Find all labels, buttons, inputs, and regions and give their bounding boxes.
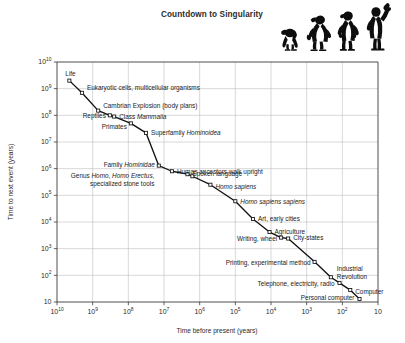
chart-title: Countdown to Singularity xyxy=(161,10,263,19)
data-point-marker xyxy=(68,79,71,82)
data-point-label: Family Hominidae xyxy=(104,161,156,169)
data-point-label: City-states xyxy=(293,234,323,242)
data-point-marker xyxy=(268,231,271,234)
data-point-label: Reptiles xyxy=(83,112,106,120)
data-point-marker xyxy=(170,170,173,173)
data-point-label: Eukaryotic cells, multicellular organism… xyxy=(87,84,200,92)
data-point-label: Class Mammalia xyxy=(119,113,167,120)
data-point-label: Homo sapiens xyxy=(215,183,257,191)
data-point-label: Cambrian Explosion (body plans) xyxy=(103,102,197,110)
data-point-label: Spoken language xyxy=(192,170,242,178)
data-point-marker xyxy=(251,217,254,220)
data-point-marker xyxy=(113,115,116,118)
data-point-marker xyxy=(329,276,332,279)
data-point-label: Computer xyxy=(355,288,384,296)
y-tick-label: 10 xyxy=(44,298,52,305)
data-point-label: Primates xyxy=(102,123,127,130)
data-point-marker xyxy=(234,200,237,203)
data-point-label: Personal computer xyxy=(301,294,356,302)
data-point-marker xyxy=(108,114,111,117)
y-axis-title: Time to next event (years) xyxy=(7,144,15,220)
chart-figure: Countdown to Singularity xyxy=(0,0,405,343)
data-point-marker xyxy=(129,122,132,125)
x-axis-title: Time before present (years) xyxy=(176,327,257,335)
data-point-label: Telephone, electricity, radio xyxy=(258,280,335,288)
data-point-label: Writing, wheel xyxy=(237,235,277,243)
data-point-marker xyxy=(80,91,83,94)
data-point-marker xyxy=(144,131,147,134)
data-point-label: Art, early cities xyxy=(258,215,300,223)
data-point-marker xyxy=(313,260,316,263)
data-point-label: Printing, experimental method xyxy=(226,259,311,267)
data-point-marker xyxy=(287,237,290,240)
x-tick-label: 10 xyxy=(374,308,382,315)
data-point-marker xyxy=(338,281,341,284)
countdown-to-singularity-chart: Countdown to Singularity xyxy=(0,0,405,343)
data-point-label: Life xyxy=(65,70,76,77)
data-point-marker xyxy=(157,164,160,167)
data-point-marker xyxy=(209,183,212,186)
data-point-label: Superfamily Hominoidea xyxy=(151,129,221,137)
data-point-marker xyxy=(358,297,361,300)
data-point-marker xyxy=(349,289,352,292)
data-point-marker xyxy=(280,236,283,239)
data-point-label: Homo sapiens sapiens xyxy=(240,198,305,206)
